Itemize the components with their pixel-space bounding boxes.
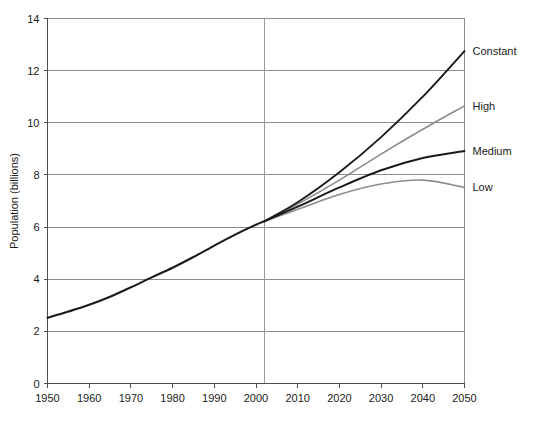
x-axis-tick-label: 2010 xyxy=(285,392,309,404)
y-axis-tick-label: 8 xyxy=(33,169,39,181)
series-group xyxy=(48,51,465,318)
series-line-low xyxy=(264,180,464,221)
y-axis-tick-label: 4 xyxy=(33,273,39,285)
series-label-low: Low xyxy=(473,181,493,193)
y-axis-ticks-group: 02468101214 xyxy=(27,13,47,390)
y-axis-tick-label: 12 xyxy=(27,65,39,77)
x-axis-tick-label: 1980 xyxy=(160,392,184,404)
x-axis-tick-label: 1970 xyxy=(119,392,143,404)
y-axis-title: Population (billions) xyxy=(8,153,20,249)
y-axis-tick-label: 10 xyxy=(27,117,39,129)
x-axis-tick-label: 2040 xyxy=(411,392,435,404)
x-axis-tick-label: 1960 xyxy=(77,392,101,404)
axes-group xyxy=(48,19,465,384)
x-axis-ticks-group: 1950196019701980199020002010202020302040… xyxy=(35,384,476,404)
gridlines-group xyxy=(48,19,465,384)
y-axis-tick-label: 6 xyxy=(33,221,39,233)
x-axis-tick-label: 1950 xyxy=(35,392,59,404)
y-axis-tick-label: 0 xyxy=(33,378,39,390)
chart-canvas: 0246810121419501960197019801990200020102… xyxy=(0,0,533,431)
y-axis-tick-label: 14 xyxy=(27,13,39,25)
series-line-history xyxy=(48,221,265,317)
series-label-constant: Constant xyxy=(473,45,517,57)
series-line-constant xyxy=(264,51,464,221)
y-axis-tick-label: 2 xyxy=(33,325,39,337)
series-label-high: High xyxy=(473,100,496,112)
population-projection-chart: 0246810121419501960197019801990200020102… xyxy=(0,0,533,431)
x-axis-tick-label: 2050 xyxy=(452,392,476,404)
series-label-medium: Medium xyxy=(473,145,512,157)
x-axis-tick-label: 1990 xyxy=(202,392,226,404)
x-axis-tick-label: 2030 xyxy=(369,392,393,404)
series-labels-group: ConstantHighMediumLow xyxy=(473,45,517,193)
x-axis-tick-label: 2020 xyxy=(327,392,351,404)
x-axis-tick-label: 2000 xyxy=(244,392,268,404)
